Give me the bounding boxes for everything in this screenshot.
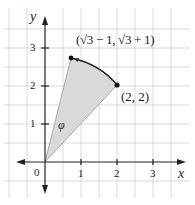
rotated-point-label: (√3 − 1, √3 + 1) [76,33,154,46]
y-tick-3: 3 [30,42,36,53]
x-axis-label: x [178,167,184,181]
y-axis-arrow-up-icon [42,16,48,25]
x-axis-arrow-right-icon [177,159,186,165]
point-rotated [69,56,74,61]
coordinate-diagram: y x 0 1 2 3 1 2 3 (√3 − 1, √3 + 1) (2, 2… [0,0,195,205]
angle-phi-label: φ [58,119,65,131]
x-tick-2: 2 [114,168,120,179]
x-axis-arrow-left-icon [16,159,25,165]
x-tick-3: 3 [150,168,156,179]
x-tick-1: 1 [78,168,84,179]
point-2-2 [114,82,119,87]
y-tick-2: 2 [30,80,36,91]
y-axis-label: y [30,10,36,24]
y-axis-arrow-down-icon [42,185,48,194]
origin-label: 0 [34,167,40,178]
y-tick-1: 1 [30,118,36,129]
point-2-2-label: (2, 2) [121,90,149,103]
diagram-canvas [0,0,195,205]
